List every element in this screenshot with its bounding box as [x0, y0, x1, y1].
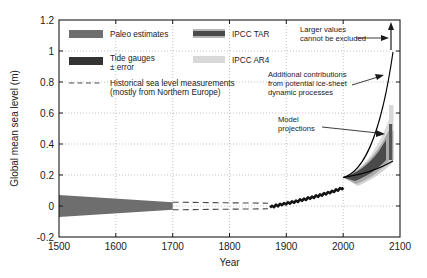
xtick-label-2000: 2000: [332, 241, 355, 252]
annotation-ice-sheet-line2: from potential ice-sheet: [268, 79, 348, 88]
sea-level-chart-figure: 1.2 1 0.8 0.6 0.4 0.2 0 -0.2 1500 1600 1…: [0, 0, 427, 278]
xtick-label-1900: 1900: [275, 241, 298, 252]
legend-label-tide-gauges: Tide gauges: [110, 54, 155, 63]
range-bar-model-core: [389, 124, 392, 160]
xtick-label-1700: 1700: [162, 241, 185, 252]
legend-swatch-ipcc-tar: [193, 31, 225, 36]
annotation-ice-sheet-line1: Additional contributions: [268, 70, 347, 79]
xtick-label-1500: 1500: [48, 241, 71, 252]
legend-label-ipcc-tar: IPCC TAR: [232, 30, 270, 39]
ytick-label-0.6: 0.6: [40, 108, 54, 119]
legend-label-ipcc-ar4: IPCC AR4: [232, 56, 270, 65]
ytick-label-0.2: 0.2: [40, 170, 54, 181]
ytick-label-1.2: 1.2: [40, 15, 54, 26]
x-axis-label: Year: [219, 257, 240, 268]
ytick-label-0: 0: [48, 201, 54, 212]
legend-label-paleo-estimates: Paleo estimates: [110, 30, 168, 39]
legend-sublabel-historical-measurements: (mostly from Northern Europe): [110, 88, 221, 97]
annotation-model-projections-line1: Model: [278, 115, 299, 124]
annotation-larger-values-line1: Larger values: [300, 25, 346, 34]
ytick-label-0.8: 0.8: [40, 77, 54, 88]
ytick-label-0.4: 0.4: [40, 139, 54, 150]
annotation-model-projections-line2: projections: [278, 124, 315, 133]
legend-swatch-ipcc-ar4: [193, 56, 225, 63]
annotation-larger-values-line2: cannot be excluded: [300, 34, 366, 43]
ytick-label-1.0: 1: [48, 46, 54, 57]
legend-label-historical-measurements: Historical sea level measurements: [110, 79, 235, 88]
xtick-label-1600: 1600: [105, 241, 128, 252]
legend-swatch-tide-gauges: [69, 57, 103, 65]
xtick-label-1800: 1800: [218, 241, 241, 252]
y-axis-label: Global mean sea level (m): [9, 70, 20, 187]
legend-swatch-paleo-estimates: [69, 30, 103, 38]
chart-canvas: 1.2 1 0.8 0.6 0.4 0.2 0 -0.2 1500 1600 1…: [0, 0, 427, 278]
xtick-label-2100: 2100: [389, 241, 412, 252]
annotation-ice-sheet-line3: dynamic processes: [268, 88, 333, 97]
legend-sublabel-tide-gauges-error: ± error: [110, 63, 134, 72]
